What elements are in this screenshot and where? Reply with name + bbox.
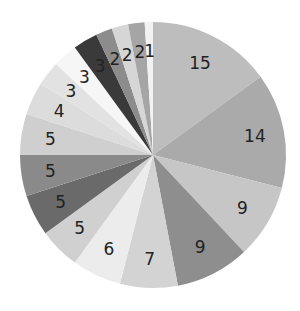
- slice-label: 6: [103, 239, 114, 259]
- slice-label: 7: [144, 249, 155, 269]
- slice-label: 5: [45, 129, 56, 149]
- pie-chart: 15149976555543332221: [0, 0, 300, 311]
- slice-label: 4: [54, 101, 65, 121]
- slice-label: 2: [122, 45, 133, 65]
- slice-label: 3: [79, 67, 90, 87]
- slice-label: 3: [95, 56, 106, 76]
- slice-label: 14: [244, 126, 266, 146]
- slice-label: 9: [237, 198, 248, 218]
- slice-label: 15: [189, 53, 211, 73]
- slice-label: 5: [55, 192, 66, 212]
- slice-label: 2: [109, 49, 120, 69]
- slice-label: 3: [66, 81, 77, 101]
- slice-label: 5: [45, 161, 56, 181]
- slice-label: 5: [74, 218, 85, 238]
- slice-label: 1: [144, 41, 155, 61]
- slice-label: 9: [195, 237, 206, 257]
